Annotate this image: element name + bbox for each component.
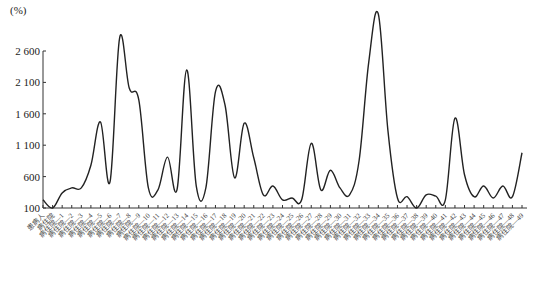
y-tick-label: 2 600	[15, 45, 40, 57]
y-axis: 1006001 1001 6002 1002 600	[15, 45, 46, 214]
plot-area	[43, 11, 522, 208]
y-tick-label: 2 100	[15, 76, 40, 88]
y-tick-label: 100	[24, 202, 41, 214]
line-chart: 1006001 1001 6002 1002 600 患病人病住院病住院—1病住…	[0, 0, 547, 285]
data-line	[43, 11, 522, 208]
y-tick-label: 600	[24, 171, 41, 183]
y-tick-label: 1 100	[15, 139, 40, 151]
y-axis-unit-label: (%)	[10, 4, 27, 17]
x-axis: 患病人病住院病住院—1病住院—2病住院—3病住院—4病住院—5病住院—6病住院—…	[25, 205, 527, 242]
y-tick-label: 1 600	[15, 108, 40, 120]
